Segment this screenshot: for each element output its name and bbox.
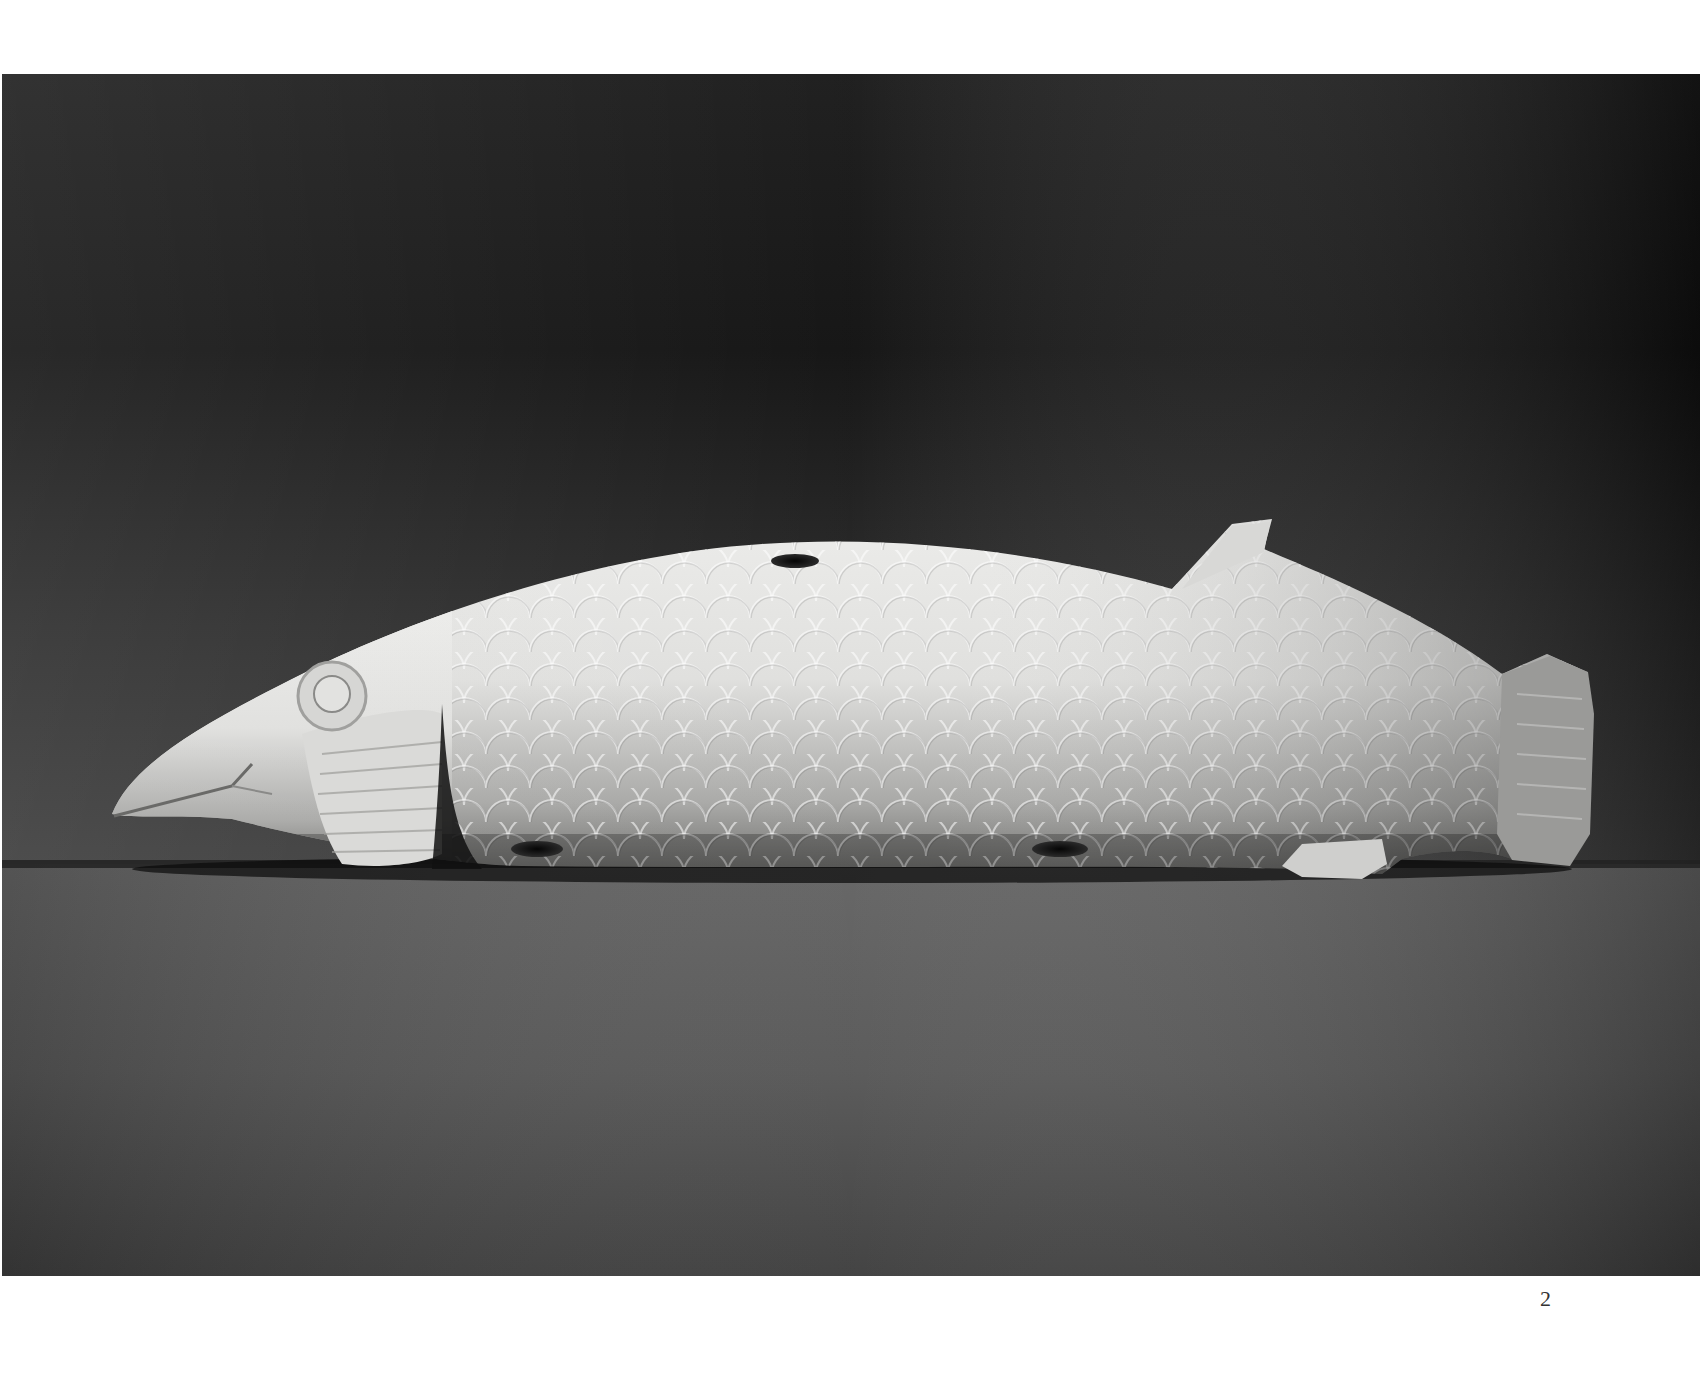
dorsal-hole — [771, 554, 819, 568]
page-number: 2 — [1540, 1288, 1551, 1310]
fish-sculpture-photo — [2, 74, 1700, 1276]
document-page: 2 — [0, 0, 1703, 1376]
